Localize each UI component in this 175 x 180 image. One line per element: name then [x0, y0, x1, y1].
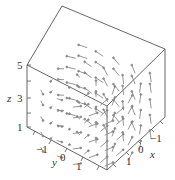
y-tick-1: 1 — [76, 160, 82, 172]
arrow-head — [122, 133, 124, 135]
arrow-head — [114, 97, 116, 99]
arrow-head — [140, 125, 142, 127]
arrow-head — [76, 85, 78, 87]
arrow-head — [69, 128, 71, 130]
arrow-head — [114, 127, 116, 129]
field-arrow — [114, 58, 120, 65]
z-axis — [27, 65, 31, 127]
arrow-head — [114, 143, 116, 145]
arrow-head — [84, 118, 86, 120]
field-arrow — [79, 56, 88, 59]
field-arrow — [114, 100, 120, 107]
arrow-head — [131, 64, 133, 66]
arrow-head — [140, 94, 142, 96]
arrow-head — [103, 67, 105, 69]
arrow-head — [42, 93, 44, 95]
arrow-head — [131, 105, 133, 107]
arrow-head — [61, 110, 63, 112]
arrow-head — [114, 112, 116, 114]
arrow-head — [114, 86, 116, 88]
arrow-head — [88, 150, 90, 152]
x-axis-label: x — [149, 148, 155, 160]
arrow-head — [66, 82, 68, 84]
arrow-head — [50, 91, 52, 93]
arrow-head — [96, 138, 98, 140]
arrow-head — [61, 141, 63, 143]
arrow-head — [84, 103, 86, 105]
arrow-head — [106, 140, 108, 142]
arrow-head — [131, 94, 133, 96]
arrow-head — [106, 125, 108, 127]
arrow-head — [95, 80, 97, 82]
arrow-head — [88, 134, 90, 136]
arrow-head — [113, 57, 115, 59]
arrow-head — [95, 91, 97, 93]
arrow-head — [112, 120, 114, 122]
arrow-head — [76, 100, 78, 102]
arrow-head — [149, 99, 151, 101]
arrow-head — [66, 113, 68, 115]
arrow-head — [80, 147, 82, 149]
field-arrow — [116, 134, 123, 140]
arrow-head — [78, 44, 80, 46]
field-arrow — [79, 45, 88, 48]
arrow-head — [96, 154, 98, 156]
arrow-head — [95, 106, 97, 108]
arrow-head — [66, 66, 68, 68]
vector-field-plot: 5 3 1 z −1 0 1 y −1 0 1 x — [0, 0, 175, 180]
field-arrow — [105, 121, 113, 125]
arrow-head — [78, 55, 80, 57]
arrow-head — [122, 101, 124, 103]
field-arrow — [67, 67, 76, 69]
arrow-head — [106, 98, 108, 100]
arrow-head — [69, 87, 71, 89]
field-arrow — [116, 150, 123, 156]
arrow-head — [113, 68, 115, 70]
arrow-head — [42, 120, 44, 122]
y-axis-label: y — [51, 156, 57, 168]
arrow-head — [84, 87, 86, 89]
arrow-head — [131, 75, 133, 77]
arrow-head — [122, 74, 124, 76]
y-tick-0: 0 — [60, 151, 66, 163]
vector-field-arrows — [41, 44, 151, 166]
field-arrow — [96, 62, 104, 67]
arrow-head — [88, 119, 90, 121]
arrow-head — [106, 109, 108, 111]
field-arrow — [114, 69, 120, 76]
arrow-head — [131, 121, 133, 123]
arrow-head — [61, 99, 63, 101]
z-tick-1: 1 — [17, 121, 23, 133]
field-arrow — [67, 56, 76, 58]
y-tick-neg1: −1 — [36, 143, 48, 155]
arrow-head — [50, 138, 52, 140]
arrow-head — [103, 124, 105, 126]
arrow-head — [76, 74, 78, 76]
arrow-head — [69, 144, 71, 146]
arrow-head — [140, 109, 142, 111]
arrow-head — [112, 131, 114, 133]
arrow-head — [149, 114, 151, 116]
arrow-head — [57, 68, 59, 70]
arrow-head — [122, 85, 124, 87]
arrow-head — [88, 92, 90, 94]
arrow-head — [96, 123, 98, 125]
z-axis-label: z — [6, 92, 12, 104]
field-arrow — [116, 108, 123, 114]
arrow-head — [140, 140, 142, 142]
arrow-head — [57, 94, 59, 96]
arrow-head — [131, 136, 133, 138]
x-tick-0: 0 — [138, 143, 144, 155]
arrow-head — [122, 118, 124, 120]
arrow-head — [57, 79, 59, 81]
arrow-head — [122, 149, 124, 151]
arrow-head — [103, 78, 105, 80]
arrow-head — [69, 97, 71, 99]
arrow-head — [95, 50, 97, 52]
arrow-head — [149, 83, 151, 85]
arrow-head — [50, 107, 52, 109]
arrow-head — [106, 156, 108, 158]
arrow-head — [122, 107, 124, 109]
arrow-head — [88, 103, 90, 105]
arrow-head — [42, 135, 44, 137]
